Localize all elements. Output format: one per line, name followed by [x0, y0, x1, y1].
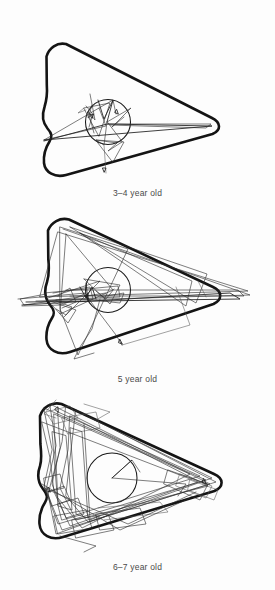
target-shape-outline [45, 219, 220, 353]
panel-5-drawing [0, 205, 275, 375]
child-tracing-strokes [42, 400, 218, 552]
target-shape-outline [43, 44, 219, 176]
developmental-tracing-figure: 3–4 year old [0, 0, 275, 590]
panel-caption-6-7: 6–7 year old [0, 561, 275, 573]
panel-3-4-year-old: 3–4 year old [0, 14, 275, 199]
panel-caption-3-4: 3–4 year old [0, 187, 275, 199]
panel-3-4-drawing [0, 14, 275, 189]
panel-caption-5: 5 year old [0, 373, 275, 385]
child-tracing-strokes [18, 227, 250, 359]
panel-6-7-year-old: 6–7 year old [0, 388, 275, 573]
panel-5-year-old: 5 year old [0, 205, 275, 385]
panel-6-7-drawing [0, 388, 275, 563]
